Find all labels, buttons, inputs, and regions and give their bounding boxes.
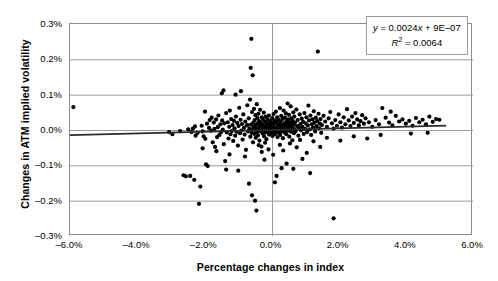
data-point	[248, 98, 252, 102]
data-point	[210, 116, 214, 120]
data-point	[294, 107, 298, 111]
data-point	[237, 106, 241, 110]
data-point	[427, 114, 431, 118]
data-point	[296, 134, 300, 138]
data-point	[431, 120, 435, 124]
x-tick-label: –6.0%	[39, 240, 99, 250]
data-point	[312, 109, 316, 113]
data-point	[250, 193, 254, 197]
data-point	[184, 174, 188, 178]
data-point	[287, 135, 291, 139]
data-point	[222, 142, 226, 146]
data-point	[221, 88, 225, 92]
x-tick-label: 4.0%	[375, 240, 435, 250]
data-point	[278, 143, 282, 147]
data-point	[218, 122, 222, 126]
data-point	[233, 93, 237, 97]
data-point	[347, 118, 351, 122]
data-point	[323, 119, 327, 123]
data-point	[365, 136, 369, 140]
scatter-chart-figure: Changes in ATM implied volatility Percen…	[0, 0, 498, 281]
data-point	[387, 120, 391, 124]
data-point	[358, 119, 362, 123]
data-point	[308, 171, 312, 175]
data-point	[273, 180, 277, 184]
data-point	[320, 123, 324, 127]
data-point	[214, 117, 218, 121]
data-point	[198, 184, 202, 188]
data-point	[292, 114, 296, 118]
data-point	[223, 159, 227, 163]
data-point	[248, 135, 252, 139]
data-point	[260, 150, 264, 154]
data-point	[409, 131, 413, 135]
data-point	[194, 134, 198, 138]
data-point	[228, 108, 232, 112]
data-point	[302, 111, 306, 115]
data-point	[374, 118, 378, 122]
data-point	[338, 139, 342, 143]
data-point	[404, 122, 408, 126]
data-point	[188, 174, 192, 178]
data-point	[197, 202, 201, 206]
data-point	[233, 134, 237, 138]
data-point	[352, 134, 356, 138]
data-point	[321, 114, 325, 118]
data-point	[298, 138, 302, 142]
data-point	[258, 108, 262, 112]
data-point	[363, 116, 367, 120]
data-point	[256, 112, 260, 116]
data-point	[309, 133, 313, 137]
data-point	[338, 120, 342, 124]
data-point	[249, 66, 253, 70]
data-point	[414, 116, 418, 120]
data-point	[192, 178, 196, 182]
data-point	[193, 124, 197, 128]
data-point	[252, 107, 256, 111]
data-point	[400, 117, 404, 121]
data-point	[227, 152, 231, 156]
data-point	[350, 114, 354, 118]
data-point	[394, 114, 398, 118]
data-point	[288, 141, 292, 145]
trendline-equation-box: y = 0.0024x + 9E–07 R2 = 0.0064	[366, 16, 468, 55]
data-point	[214, 149, 218, 153]
data-point	[224, 167, 228, 171]
data-point	[389, 110, 393, 114]
data-point	[232, 126, 236, 130]
data-point	[437, 118, 441, 122]
data-point	[407, 119, 411, 123]
data-point	[298, 112, 302, 116]
data-point	[306, 104, 310, 108]
data-point	[262, 158, 266, 162]
data-point	[421, 118, 425, 122]
data-point	[289, 104, 293, 108]
data-point	[243, 154, 247, 158]
data-point	[71, 105, 75, 109]
data-point	[278, 106, 282, 110]
data-point	[384, 116, 388, 120]
data-point	[271, 153, 275, 157]
data-point	[241, 112, 245, 116]
data-point	[281, 136, 285, 140]
data-point	[318, 117, 322, 121]
data-point	[353, 111, 357, 115]
data-point	[318, 145, 322, 149]
data-point	[236, 169, 240, 173]
data-point	[335, 124, 339, 128]
data-point	[224, 111, 228, 115]
data-point	[326, 116, 330, 120]
data-point	[313, 129, 317, 133]
data-point	[274, 110, 278, 114]
data-point	[357, 123, 361, 127]
data-point	[200, 124, 204, 128]
x-tick-label: –2.0%	[173, 240, 233, 250]
data-point	[226, 120, 230, 124]
data-point	[247, 116, 251, 120]
data-point	[333, 118, 337, 122]
data-point	[285, 161, 289, 165]
data-point	[234, 114, 238, 118]
data-point	[308, 113, 312, 117]
data-point	[380, 106, 384, 110]
data-point	[328, 110, 332, 114]
